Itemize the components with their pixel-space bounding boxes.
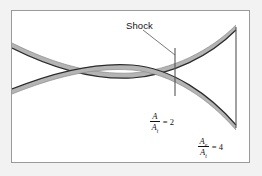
- area-ratio-exit-numerator: Ae: [198, 137, 209, 147]
- area-ratio-throat-numerator: A: [150, 112, 160, 122]
- figure-frame: Shock A At = 2 Ae At = 4: [11, 10, 250, 163]
- upper-nozzle-wall: [12, 25, 236, 78]
- area-ratio-throat-fraction: A At: [150, 112, 160, 132]
- area-ratio-exit-label: Ae At = 4: [198, 137, 223, 157]
- area-ratio-throat-denominator: At: [150, 122, 160, 131]
- area-ratio-exit-value: = 4: [209, 142, 223, 152]
- area-ratio-exit-denominator: At: [198, 147, 209, 156]
- shock-leader-line: [143, 30, 175, 55]
- area-ratio-throat-value: = 2: [160, 117, 174, 127]
- shock-label: Shock: [126, 20, 153, 31]
- area-ratio-exit-fraction: Ae At: [198, 137, 209, 157]
- area-ratio-throat-denominator-subscript: t: [157, 128, 159, 134]
- area-ratio-throat-label: A At = 2: [150, 112, 174, 132]
- figure-container: Shock A At = 2 Ae At = 4: [0, 0, 262, 176]
- area-ratio-exit-denominator-subscript: t: [205, 153, 207, 159]
